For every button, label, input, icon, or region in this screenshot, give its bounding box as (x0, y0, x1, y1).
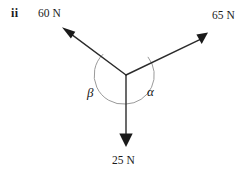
part-label-ii: ii (11, 7, 18, 19)
arrowhead-60n (62, 27, 75, 38)
angle-arc-beta (94, 54, 126, 104)
force-label-25n: 25 N (112, 155, 135, 167)
angle-label-alpha: α (147, 85, 154, 98)
arrowhead-25n (119, 134, 132, 148)
vector-shaft-60n (71, 34, 127, 75)
arrowhead-65n (196, 33, 208, 45)
force-label-65n: 65 N (212, 10, 235, 22)
vector-shaft-65n (126, 40, 200, 75)
vector-diagram-canvas (0, 0, 252, 175)
force-diagram-figure: ii 60 N 65 N 25 N α β (0, 0, 252, 175)
angle-label-beta: β (87, 86, 93, 99)
force-label-60n: 60 N (38, 8, 61, 20)
